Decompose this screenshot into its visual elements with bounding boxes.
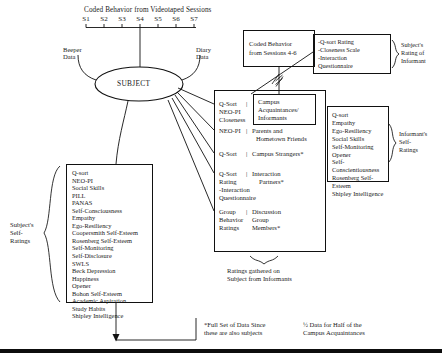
informant-row-4-separator: | [246,170,247,177]
informant-self-rating-item: Self-Monitoring [332,143,388,151]
subject-self-rating-item: Self-Monitoring [72,244,138,252]
informant-row-1-target-3: Informants [258,114,287,121]
informant-self-rating-item: Social Skills [332,135,388,143]
subject-rating-line4: Questionnaire [318,63,353,70]
bottom-rule [0,349,442,353]
subject-rating-brace-label-line3: Informant [401,58,426,65]
footnote-right-line1: ½ Data for Half of the [303,321,362,328]
informant-row-4-measure-1: Q-Sort [219,170,237,177]
subject-to-row-4 [172,98,214,173]
subject-self-ratings-box: Q-sort NEO-PI Social Skills PILL PANAS S… [66,164,153,303]
coded-sessions-line1: Coded Behavior [249,40,292,47]
informant-row-5-measure-2: Behavior [219,216,243,223]
subject-self-ratings-label-line3: Ratings [10,237,30,244]
subject-rating-of-informant-brace [392,40,399,68]
informant-row-1-target-1: Campus [258,98,280,105]
subject-self-rating-item: Happiness [72,275,138,283]
subject-self-rating-item: Beck Depression [72,267,138,275]
informant-row-2-target-2: Hometown Friends [256,135,307,142]
diary-data-label-line2: Data [196,53,208,60]
informant-row-1-separator: | [246,100,247,107]
session-label-s5: S5 [151,16,165,24]
session-label-s2: S2 [97,16,111,24]
informant-row-4-target-1: Interaction [252,170,281,177]
informant-row-4-target-2: Partners* [259,178,284,185]
informants-caption-line2: Subject from Informants [227,275,292,282]
informant-self-ratings-box: Q-sort Empathy Ego-Resiliency Social Ski… [327,106,389,182]
informant-self-ratings-label-line1: Informant's [399,131,427,138]
subject-self-rating-item: Q-sort [72,169,138,177]
subject-node-label: SUBJECT [117,80,150,88]
footnote-right-line2: Campus Acquaintances [303,329,365,336]
session-label-s7: S7 [187,16,201,24]
informant-row-5-target-1: Discussion [252,208,281,215]
informant-row-5-target-2: Group [252,216,269,223]
subject-rating-line2: -Closeness Scale [318,47,360,54]
subject-self-rating-item: Coopersmith Self-Esteem [72,229,138,237]
footnote-left-line2: these are also subjects [204,329,262,336]
informant-row-2-separator: | [246,127,247,134]
subject-self-rating-item: Bohon Self-Esteem [72,290,138,298]
beeper-connector [78,55,96,80]
subject-self-rating-item: Opener [72,282,138,290]
subject-self-rating-item: SWLS [72,260,138,268]
informant-self-rating-item: Opener [332,151,388,159]
informant-row-5-measure-1: Group [219,208,236,215]
subject-to-row-2 [177,92,214,130]
session-label-s6: S6 [169,16,183,24]
subject-self-ratings-brace [44,166,60,302]
informant-row-1-measure-1: Q-Sort [219,100,237,107]
subject-to-row-1 [178,88,214,104]
subject-to-row-5 [168,100,214,211]
subject-self-rating-item: Self-Disclosure [72,252,138,260]
beeper-data-label-line2: Data [63,53,75,60]
subject-self-ratings-label-line2: Self- [10,229,23,236]
informant-row-4-measure-4: Questionnaire [219,194,256,201]
subject-self-ratings-label-line1: Subject's [10,221,34,228]
informant-self-rating-item: Shipley Intelligence [332,190,388,198]
subject-self-rating-item: Self-Consciousness [72,207,138,215]
top-title: Coded Behavior from Videotaped Sessions [84,6,212,14]
informant-self-rating-item: Q-sort [332,111,388,119]
informant-self-rating-item: Ego-Resiliency [332,127,388,135]
coded-sessions-line2: from Sessions 4-6 [249,49,297,56]
subject-self-rating-item: NEO-PI [72,177,138,185]
campus-acquaintances-box: Campus Acquaintances/ Informants [253,94,316,125]
informant-row-1-measure-2: NEO-PI [219,108,241,115]
informant-row-2-target-1: Parents and [252,127,283,134]
subject-self-rating-item: Study Habits [72,305,138,313]
informant-self-ratings-list: Q-sort Empathy Ego-Resiliency Social Ski… [332,111,388,198]
subject-self-rating-item: Ego-Resiliency [72,222,138,230]
footnote-left-line1: *Full Set of Data Since [204,321,266,328]
session-label-s1: S1 [79,16,93,24]
subject-self-rating-item: Empathy [72,214,138,222]
informant-row-5-separator: | [246,208,247,215]
subject-rating-line1: -Q-sort Rating [318,39,354,46]
subject-rating-brace-label-line1: Subject's [401,42,423,49]
informant-row-5-target-3: Members* [252,224,280,231]
informant-self-rating-item: Rosenberg Self-Esteem [332,174,388,190]
informant-row-2-measure-1: NEO-PI [219,127,241,134]
informant-self-ratings-brace [389,124,396,162]
informants-caption-line1: Ratings gathered on [227,267,280,274]
subject-self-rating-item: PANAS [72,199,138,207]
informant-row-3-target-1: Campus Strangers* [252,150,303,157]
informant-self-rating-item: Empathy [332,119,388,127]
informant-row-3-measure-1: Q-Sort [219,150,237,157]
subject-self-rating-item: PILL [72,192,138,200]
subject-self-rating-item: Shipley Intelligence [72,312,138,320]
coded-sessions-box: Coded Behavior from Sessions 4-6 [243,30,315,67]
subject-self-rating-item: Social Skills [72,184,138,192]
subject-self-ratings-list: Q-sort NEO-PI Social Skills PILL PANAS S… [72,169,138,320]
informant-row-1-measure-3: Closeness [219,116,245,123]
informant-row-4-measure-3: -Interaction [219,186,250,193]
session-label-s3: S3 [115,16,129,24]
session-label-s4: S4 [133,16,147,24]
subject-self-rating-item: Academic Aspiration [72,297,138,305]
informant-row-5-measure-3: Ratings [219,224,239,231]
informant-self-ratings-label-line2: Self- [399,139,411,146]
informant-self-rating-item: Self-Conscientiousness [332,158,388,174]
subject-to-self-ratings [116,101,128,164]
subject-rating-line3: -Interaction [318,55,347,62]
subject-self-rating-item: Rosenberg Self-Esteem [72,237,138,245]
